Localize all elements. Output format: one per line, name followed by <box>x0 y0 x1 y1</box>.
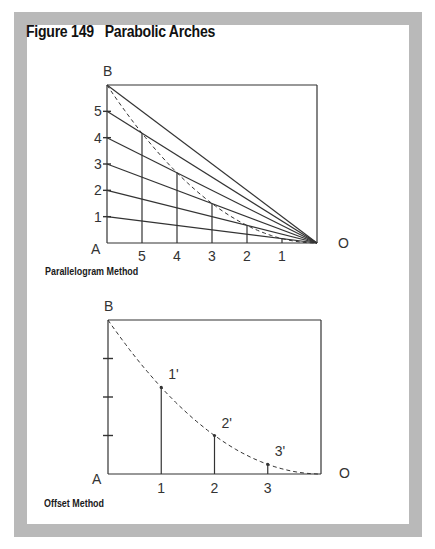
division-label: 3 <box>264 480 272 496</box>
offset-method-diagram: B A O 11'22'33' <box>92 298 350 496</box>
division-label: 1 <box>278 248 286 264</box>
point-label-b: B <box>103 63 112 79</box>
offset-point <box>266 463 269 466</box>
point-label-o: O <box>338 235 349 251</box>
offset-label: 1' <box>168 366 178 382</box>
offset-caption: Offset Method <box>44 497 104 509</box>
offset-point <box>160 386 163 389</box>
point-label-a: A <box>91 241 101 257</box>
point-label-o: O <box>339 465 350 481</box>
division-label: 1 <box>157 480 165 496</box>
division-label: 5 <box>138 248 146 264</box>
offset-point <box>213 434 216 437</box>
offset-label: 3' <box>275 443 285 459</box>
offset-label: 2' <box>222 415 232 431</box>
division-label: 2 <box>211 480 219 496</box>
division-label: 3 <box>208 248 216 264</box>
point-label-a: A <box>92 471 102 487</box>
point-label-b: B <box>104 298 113 314</box>
division-label: 3 <box>94 156 102 172</box>
parallelogram-caption: Parallelogram Method <box>45 265 138 277</box>
division-label: 1 <box>94 209 102 225</box>
division-label: 4 <box>173 248 181 264</box>
division-label: 5 <box>94 103 102 119</box>
parallelogram-method-diagram: B A O 1234554321 <box>91 63 349 264</box>
division-label: 2 <box>243 248 251 264</box>
division-label: 4 <box>94 130 102 146</box>
division-label: 2 <box>94 182 102 198</box>
